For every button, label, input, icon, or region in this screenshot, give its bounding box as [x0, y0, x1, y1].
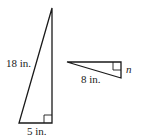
- small-triangle: 8 in. n: [67, 62, 132, 85]
- large-triangle: 18 in. 5 in.: [6, 8, 52, 137]
- small-triangle-unknown-label: n: [126, 63, 132, 75]
- small-triangle-right-angle-mark: [113, 62, 121, 70]
- small-triangle-leg-label: 8 in.: [81, 73, 101, 85]
- large-triangle-base-label: 5 in.: [27, 125, 47, 137]
- large-triangle-right-angle-mark: [44, 115, 52, 123]
- large-triangle-hypotenuse-label: 18 in.: [6, 57, 31, 69]
- similar-triangles-diagram: 18 in. 5 in. 8 in. n: [0, 0, 143, 137]
